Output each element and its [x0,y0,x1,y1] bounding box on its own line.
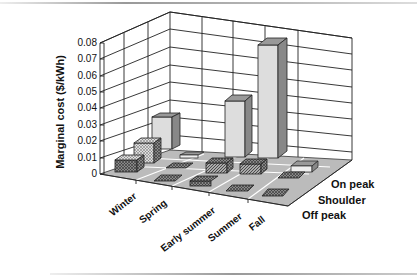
category-winter: Winter [107,190,138,218]
y-tick-3: 0.03 [78,119,98,130]
y-tick-5: 0.05 [78,86,98,97]
bar-fall-on-peak [291,161,318,172]
y-tick-7: 0.07 [78,53,98,64]
series-label-off-peak: Off peak [302,209,347,221]
category-fall: Fall [247,213,268,232]
bar-summer-on-peak [258,38,287,158]
series-label-shoulder: Shoulder [318,194,366,206]
y-tick-8: 0.08 [78,37,98,48]
bar-early-summer-on-peak [225,95,252,157]
x-tick-labels: Winter Spring Early summer Summer Fall [107,190,267,254]
y-tick-4: 0.04 [78,102,98,113]
y-tick-0: 0 [91,168,97,179]
series-label-on-peak: On peak [331,178,375,190]
category-early-summer: Early summer [158,204,217,253]
category-spring: Spring [137,197,169,225]
y-tick-labels: 0 0.01 0.02 0.03 0.04 0.05 0.06 0.07 0.0… [78,37,98,179]
y-axis [100,43,104,174]
y-tick-6: 0.06 [78,70,98,81]
bar-winter-off-peak [115,155,144,172]
bar-summer-shoulder [240,159,267,174]
chart-3d-column: 0 0.01 0.02 0.03 0.04 0.05 0.06 0.07 0.0… [0,0,417,275]
bar-early-summer-shoulder [206,158,233,173]
y-tick-2: 0.02 [78,135,98,146]
y-tick-1: 0.01 [78,152,98,163]
y-axis-label: Marginal cost ($/kWh) [54,55,66,169]
